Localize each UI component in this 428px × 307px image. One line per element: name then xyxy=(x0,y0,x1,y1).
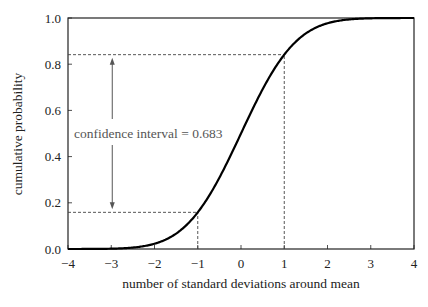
cdf-chart: −4−3−2−1012340.00.20.40.60.81.0 confiden… xyxy=(0,0,428,307)
y-tick-label: 0.6 xyxy=(45,103,62,118)
y-tick-label: 0.8 xyxy=(45,57,61,72)
y-tick-label: 1.0 xyxy=(45,11,61,26)
y-tick-label: 0.4 xyxy=(45,149,62,164)
y-axis-label: cumulative probability xyxy=(10,72,25,195)
x-tick-label: 3 xyxy=(368,256,375,271)
arrowhead-up-icon xyxy=(110,58,115,65)
x-tick-label: 4 xyxy=(411,256,418,271)
x-tick-label: −1 xyxy=(191,256,205,271)
y-tick-label: 0.0 xyxy=(45,242,61,257)
arrowhead-down-icon xyxy=(110,202,115,209)
x-tick-label: 1 xyxy=(281,256,288,271)
x-tick-label: −4 xyxy=(61,256,75,271)
x-tick-label: 0 xyxy=(238,256,245,271)
x-tick-label: −2 xyxy=(148,256,162,271)
reference-lines xyxy=(68,55,284,249)
x-tick-label: −3 xyxy=(104,256,118,271)
confidence-interval-label: confidence interval = 0.683 xyxy=(74,126,223,141)
y-tick-label: 0.2 xyxy=(45,195,61,210)
x-tick-label: 2 xyxy=(324,256,331,271)
x-axis-label: number of standard deviations around mea… xyxy=(122,276,360,291)
